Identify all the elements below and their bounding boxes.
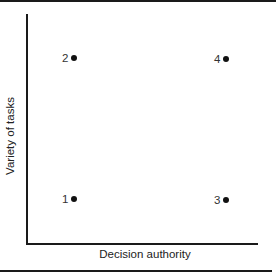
point-dot-icon	[71, 55, 77, 61]
quadrant-point-4: 4	[214, 52, 229, 66]
point-label: 3	[214, 193, 220, 207]
top-border-rule	[0, 0, 276, 2]
bottom-border-rule	[0, 270, 272, 272]
x-axis-label: Decision authority	[99, 248, 190, 260]
point-dot-icon	[223, 197, 229, 203]
quadrant-point-2: 2	[62, 51, 77, 65]
point-dot-icon	[223, 56, 229, 62]
point-label: 1	[62, 192, 68, 206]
point-label: 2	[62, 51, 68, 65]
y-axis-label: Variety of tasks	[4, 97, 16, 175]
y-axis-line	[26, 14, 28, 244]
x-axis-line	[26, 243, 258, 245]
point-label: 4	[214, 52, 220, 66]
quadrant-point-3: 3	[214, 193, 229, 207]
quadrant-point-1: 1	[62, 192, 77, 206]
point-dot-icon	[71, 196, 77, 202]
